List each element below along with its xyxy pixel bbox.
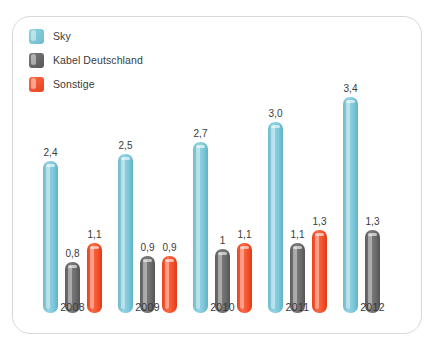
x-axis-label-2012: 2012 [343, 301, 402, 313]
bar-group-2012: 3,41,32012 [343, 55, 402, 313]
bar-sonstige-2011[interactable]: 1,3 [312, 55, 327, 313]
chart-panel: Sky Kabel Deutschland Sonstige 2,40,81,1… [12, 16, 422, 334]
bar-value-label: 3,0 [269, 109, 283, 119]
x-axis-label-2010: 2010 [193, 301, 252, 313]
bar-sky-2009[interactable]: 2,5 [118, 55, 133, 313]
bar-sonstige-2008[interactable]: 1,1 [87, 55, 102, 313]
bar-group-bars: 2,711,1 [193, 55, 252, 313]
bar-group-2008: 2,40,81,12008 [43, 55, 102, 313]
bar-value-label: 1,3 [313, 217, 327, 227]
bar-rect[interactable] [118, 154, 133, 313]
bar-sky-2008[interactable]: 2,4 [43, 55, 58, 313]
x-axis-label-2011: 2011 [268, 301, 327, 313]
bar-value-label: 1,1 [238, 230, 252, 240]
bar-value-label: 1,3 [366, 217, 380, 227]
bar-group-bars: 2,40,81,1 [43, 55, 102, 313]
bar-sky-2011[interactable]: 3,0 [268, 55, 283, 313]
bar-sonstige-2009[interactable]: 0,9 [162, 55, 177, 313]
x-axis-label-2009: 2009 [118, 301, 177, 313]
bar-group-2011: 3,01,11,32011 [268, 55, 327, 313]
plot-area: 2,40,81,120082,50,90,920092,711,120103,0… [13, 17, 423, 335]
bar-rect[interactable] [268, 122, 283, 313]
bar-value-label: 0,9 [141, 243, 155, 253]
bar-value-label: 1 [220, 236, 226, 246]
bar-rect[interactable] [193, 142, 208, 313]
bar-group-bars: 3,41,3 [343, 55, 402, 313]
bar-sonstige-2010[interactable]: 1,1 [237, 55, 252, 313]
bar-group-2010: 2,711,12010 [193, 55, 252, 313]
bar-sky-2010[interactable]: 2,7 [193, 55, 208, 313]
bar-value-label: 0,9 [163, 243, 177, 253]
bar-group-2009: 2,50,90,92009 [118, 55, 177, 313]
bar-value-label: 2,4 [44, 148, 58, 158]
bar-kabel-deutschland-2012[interactable]: 1,3 [365, 55, 380, 313]
bar-kabel-deutschland-2011[interactable]: 1,1 [290, 55, 305, 313]
bar-group-bars: 3,01,11,3 [268, 55, 327, 313]
bar-value-label: 1,1 [88, 230, 102, 240]
bar-value-label: 2,7 [194, 129, 208, 139]
bar-group-bars: 2,50,90,9 [118, 55, 177, 313]
bar-kabel-deutschland-2009[interactable]: 0,9 [140, 55, 155, 313]
bar-kabel-deutschland-2010[interactable]: 1 [215, 55, 230, 313]
bar-sky-2012[interactable]: 3,4 [343, 55, 358, 313]
bar-kabel-deutschland-2008[interactable]: 0,8 [65, 55, 80, 313]
bar-rect[interactable] [43, 161, 58, 313]
bar-value-label: 2,5 [119, 141, 133, 151]
bar-value-label: 0,8 [66, 249, 80, 259]
bar-rect[interactable] [343, 97, 358, 313]
bar-value-label: 3,4 [344, 84, 358, 94]
bar-value-label: 1,1 [291, 230, 305, 240]
x-axis-label-2008: 2008 [43, 301, 102, 313]
